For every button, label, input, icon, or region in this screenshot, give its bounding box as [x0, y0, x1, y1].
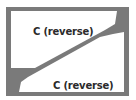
lower-region-label: C (reverse)	[53, 80, 113, 92]
upper-region-label: C (reverse)	[33, 26, 93, 38]
